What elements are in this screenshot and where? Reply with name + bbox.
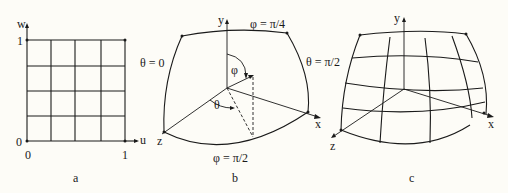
figure: w 1 0 u 0 1 a y φ = π/4 θ = 0 θ = π/2 φ …	[0, 0, 508, 193]
panel-b-axis-x: x	[315, 118, 321, 130]
panel-b-caption: b	[232, 172, 238, 184]
panel-a-axis-w: w	[17, 18, 26, 30]
panel-a-tick-u-0: 0	[25, 149, 31, 161]
panel-a-grid	[25, 23, 139, 143]
panel-c-mesh	[331, 17, 494, 144]
panel-a-tick-w-1: 1	[17, 35, 23, 47]
panel-b-patch	[162, 19, 321, 145]
panel-b-label-phi-bottom: φ = π/2	[213, 152, 248, 164]
panel-b-axis-z: z	[157, 135, 162, 147]
panel-c-axis-x: x	[488, 118, 494, 130]
panel-b-label-theta-right: θ = π/2	[306, 56, 340, 68]
panel-b-label-theta-left: θ = 0	[140, 57, 165, 69]
panel-a-axis-u: u	[140, 134, 146, 146]
panel-c-axis-z: z	[330, 140, 335, 152]
panel-c-axis-y: y	[394, 12, 400, 24]
panel-b-angle-theta: θ	[214, 99, 220, 111]
panel-a-caption: a	[73, 172, 78, 184]
panel-a-tick-w-0: 0	[16, 136, 22, 148]
panel-a-tick-u-1: 1	[122, 149, 128, 161]
panel-c-caption: c	[409, 172, 414, 184]
panel-b-angle-phi: φ	[231, 64, 238, 76]
panel-b-axis-y: y	[218, 14, 224, 26]
panel-b-label-phi-top: φ = π/4	[250, 18, 285, 30]
